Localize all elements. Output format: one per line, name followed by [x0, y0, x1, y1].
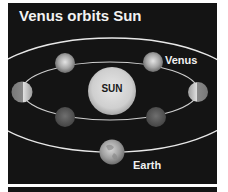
- venus-lower-right: [146, 107, 166, 127]
- venus-left: [12, 82, 33, 103]
- earth-label: Earth: [133, 159, 161, 171]
- lower-panel-strip: [8, 187, 217, 192]
- venus-lower-left: [55, 107, 75, 127]
- venus-upper-left: [55, 53, 75, 73]
- diagram-panel: Venus orbits Sun: [8, 3, 217, 184]
- sun-label: SUN: [96, 83, 128, 94]
- venus-upper-right: [143, 52, 163, 72]
- venus-label: Venus: [165, 54, 197, 66]
- venus-right: [188, 82, 208, 102]
- earth: [100, 140, 125, 165]
